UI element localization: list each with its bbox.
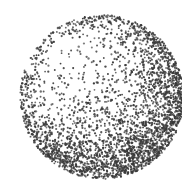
sphere-stipple-canvas bbox=[0, 0, 182, 191]
